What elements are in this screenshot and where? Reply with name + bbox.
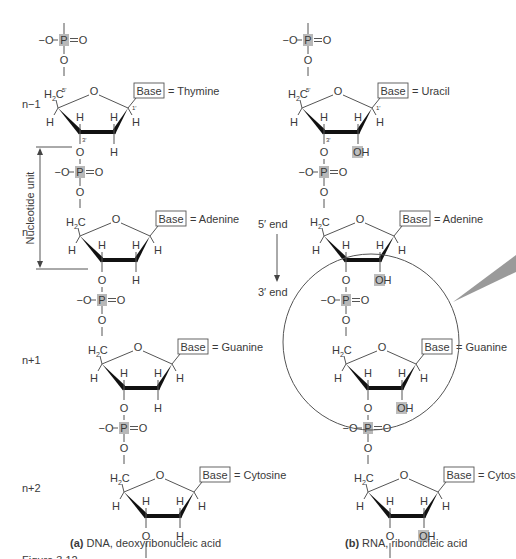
ch2-group: H2C xyxy=(44,88,64,102)
double-bonded-oxygen: O xyxy=(361,294,370,306)
bond xyxy=(409,479,438,492)
bond xyxy=(76,236,80,243)
hydrogen: H xyxy=(356,500,364,512)
c1-label: 1′ xyxy=(132,105,137,111)
bond xyxy=(150,226,158,236)
ring-oxygen: O xyxy=(134,341,143,353)
phosphorus-atom: P xyxy=(60,34,67,46)
double-bonded-oxygen: O xyxy=(95,166,104,178)
hydrogen: H xyxy=(98,239,106,251)
hydrogen: H xyxy=(386,495,394,507)
hydrogen: H xyxy=(46,116,54,128)
phosphate-group: P−OOO xyxy=(39,23,88,76)
3-prime-oxygen: O xyxy=(76,146,85,158)
double-bonded-oxygen: O xyxy=(117,294,126,306)
nucleotide-position: n+2 xyxy=(22,482,41,494)
bond xyxy=(150,236,154,243)
oxygen-minus: −O xyxy=(99,422,114,434)
base-label: Base xyxy=(158,213,183,225)
bond xyxy=(438,492,442,499)
base-name: = Cytosine xyxy=(234,469,286,481)
base-label: Base xyxy=(446,469,471,481)
phosphorus-atom: P xyxy=(304,34,311,46)
c3-label: 3′ xyxy=(326,137,331,143)
hydrogen: H xyxy=(334,372,342,384)
2-prime-hydroxyl: OH xyxy=(353,146,370,158)
c5-label: 5′ xyxy=(62,87,67,93)
2-prime-hydrogen: H xyxy=(110,146,118,158)
double-bonded-oxygen: O xyxy=(139,422,148,434)
bond xyxy=(143,351,172,364)
ring-oxygen: O xyxy=(112,213,121,225)
hydrogen: H xyxy=(398,244,406,256)
bond xyxy=(416,364,420,371)
phosphorus-atom: P xyxy=(98,294,105,306)
base-name: = Guanine xyxy=(212,341,263,353)
bond xyxy=(394,226,402,236)
bond xyxy=(366,484,368,492)
ester-oxygen: O xyxy=(320,186,329,198)
phosphate-group: P−OOO xyxy=(321,294,370,336)
2-prime-hydroxyl: OH xyxy=(375,274,392,286)
oxygen-minus: −O xyxy=(39,34,54,46)
2-prime-hydrogen: H xyxy=(154,402,162,414)
hydrogen: H xyxy=(132,116,140,128)
c1-label: 1′ xyxy=(376,105,381,111)
ring-oxygen: O xyxy=(400,469,409,481)
ch2-group: H2C xyxy=(88,344,108,358)
double-bonded-oxygen: O xyxy=(79,34,88,46)
base-label: Base xyxy=(180,341,205,353)
oxygen-minus: −O xyxy=(283,34,298,46)
arrow-down-icon xyxy=(37,261,43,268)
ring-oxygen: O xyxy=(156,469,165,481)
hydrogen: H xyxy=(442,500,450,512)
hydrogen: H xyxy=(154,244,162,256)
bond xyxy=(438,482,446,492)
bond xyxy=(416,354,424,364)
arrow-down-icon xyxy=(274,275,280,282)
base-label: Base xyxy=(380,85,405,97)
hydrogen: H xyxy=(376,116,384,128)
double-bonded-oxygen: O xyxy=(339,166,348,178)
hydrogen: H xyxy=(112,500,120,512)
hydrogen: H xyxy=(90,372,98,384)
bond xyxy=(98,364,102,371)
bond xyxy=(364,492,368,499)
hydrogen: H xyxy=(312,244,320,256)
hydrogen: H xyxy=(176,372,184,384)
oxygen-minus: −O xyxy=(55,166,70,178)
hydrogen: H xyxy=(290,116,298,128)
phosphate-group: P−OOO xyxy=(99,422,148,464)
bond xyxy=(298,108,302,115)
hydrogen: H xyxy=(68,244,76,256)
base-name: = Adenine xyxy=(434,213,483,225)
base-label: Base xyxy=(136,85,161,97)
bond xyxy=(194,482,202,492)
bond xyxy=(342,364,346,371)
bond xyxy=(78,228,80,236)
hydrogen: H xyxy=(154,367,162,379)
hydrogen: H xyxy=(398,367,406,379)
hydrogen: H xyxy=(376,239,384,251)
bond xyxy=(320,236,324,243)
c5-label: 5′ xyxy=(306,87,311,93)
nucleotide-position: n−1 xyxy=(22,98,41,110)
nucleotide-unit-label: Nucleotide unit xyxy=(24,172,36,245)
base-label: Base xyxy=(424,341,449,353)
hydrogen: H xyxy=(354,111,362,123)
bond xyxy=(56,100,58,108)
3-prime-oxygen: O xyxy=(120,402,129,414)
phosphorus-atom: P xyxy=(320,166,327,178)
hydrogen: H xyxy=(198,500,206,512)
bond xyxy=(122,484,124,492)
phosphate-group: P−OOO xyxy=(283,23,332,76)
hydrogen: H xyxy=(420,495,428,507)
oxygen-minus: −O xyxy=(77,294,92,306)
ester-oxygen: O xyxy=(342,314,351,326)
phosphorus-atom: P xyxy=(342,294,349,306)
3-prime-oxygen: O xyxy=(320,146,329,158)
callout-pointer xyxy=(453,255,516,302)
3-prime-oxygen: O xyxy=(364,402,373,414)
rna-panel: P−OOOH2C5′OHHHH1′3′OOHBase= UracilP−OOOH… xyxy=(283,23,516,558)
hydrogen: H xyxy=(120,367,128,379)
